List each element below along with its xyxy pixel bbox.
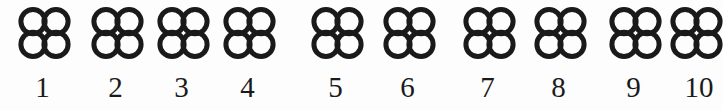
quatrefoil-svg [155, 7, 217, 59]
specimen-3: 3 [155, 0, 217, 111]
specimen-number-label: 9 [607, 70, 669, 104]
quatrefoil-icon [381, 7, 443, 59]
quatrefoil-icon [532, 7, 594, 59]
specimen-number-label: 6 [381, 70, 443, 104]
specimen-number-label: 5 [309, 70, 371, 104]
specimen-number-label: 7 [461, 70, 523, 104]
quatrefoil-svg [16, 7, 78, 59]
quatrefoil-svg [221, 7, 283, 59]
specimen-number-label: 4 [221, 70, 283, 104]
quatrefoil-icon [221, 7, 283, 59]
specimen-number-label: 8 [532, 70, 594, 104]
specimen-7: 7 [461, 0, 523, 111]
specimen-number-label: 1 [16, 70, 78, 104]
quatrefoil-icon [607, 7, 669, 59]
specimen-10: 10 [668, 0, 723, 111]
quatrefoil-svg [381, 7, 443, 59]
quatrefoil-specimen-row: 12345678910 [0, 0, 723, 111]
quatrefoil-svg [89, 7, 151, 59]
quatrefoil-icon [89, 7, 151, 59]
specimen-number-label: 10 [668, 70, 723, 104]
quatrefoil-icon [155, 7, 217, 59]
specimen-1: 1 [16, 0, 78, 111]
quatrefoil-icon [668, 7, 723, 59]
specimen-8: 8 [532, 0, 594, 111]
specimen-number-label: 3 [155, 70, 217, 104]
specimen-9: 9 [607, 0, 669, 111]
specimen-5: 5 [309, 0, 371, 111]
specimen-number-label: 2 [89, 70, 151, 104]
specimen-6: 6 [381, 0, 443, 111]
quatrefoil-svg [532, 7, 594, 59]
quatrefoil-svg [668, 7, 723, 59]
quatrefoil-svg [607, 7, 669, 59]
specimen-4: 4 [221, 0, 283, 111]
quatrefoil-icon [461, 7, 523, 59]
quatrefoil-icon [309, 7, 371, 59]
quatrefoil-svg [309, 7, 371, 59]
quatrefoil-svg [461, 7, 523, 59]
specimen-2: 2 [89, 0, 151, 111]
quatrefoil-icon [16, 7, 78, 59]
